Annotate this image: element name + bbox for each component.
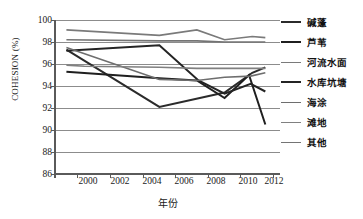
- legend-item[interactable]: 其他: [281, 132, 363, 152]
- legend-item[interactable]: 碱蓬: [281, 12, 363, 32]
- legend-swatch-icon: [281, 142, 301, 143]
- chart-legend: 碱蓬 芦苇 河流水面 水库坑塘 海涂 滩地 其他: [281, 12, 363, 152]
- legend-item[interactable]: 滩地: [281, 112, 363, 132]
- legend-item-label: 滩地: [307, 115, 327, 129]
- legend-item-label: 碱蓬: [307, 15, 327, 29]
- legend-item[interactable]: 水库坑塘: [281, 72, 363, 92]
- legend-item[interactable]: 芦苇: [281, 32, 363, 52]
- legend-swatch-icon: [281, 21, 301, 23]
- axis-lines: [55, 20, 280, 178]
- legend-item[interactable]: 海涂: [281, 92, 363, 112]
- legend-swatch-icon: [281, 122, 301, 123]
- legend-item-label: 河流水面: [307, 55, 347, 69]
- legend-swatch-icon: [281, 41, 301, 43]
- chart-figure: COHESION (%) 100 98 96 94 92 90 88 86 20…: [0, 0, 363, 219]
- data-series-group: [66, 30, 265, 125]
- legend-item-label: 水库坑塘: [307, 75, 347, 89]
- legend-swatch-icon: [281, 62, 301, 63]
- axis-ticks: [51, 20, 273, 178]
- gridlines: [55, 20, 280, 174]
- legend-swatch-icon: [281, 81, 301, 83]
- legend-item[interactable]: 河流水面: [281, 52, 363, 72]
- series-line: [66, 30, 265, 40]
- legend-item-label: 海涂: [307, 95, 327, 109]
- legend-item-label: 芦苇: [307, 35, 327, 49]
- legend-swatch-icon: [281, 102, 301, 103]
- legend-item-label: 其他: [307, 135, 327, 149]
